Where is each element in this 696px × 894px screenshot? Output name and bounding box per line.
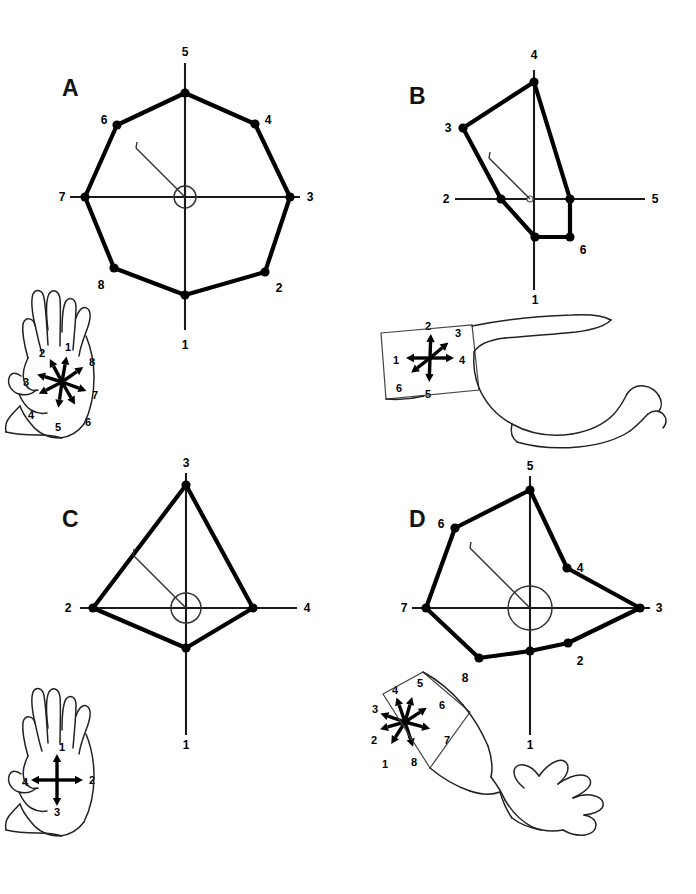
center-leader-tick [470,542,471,548]
data-point [180,290,189,299]
data-point [248,603,257,612]
center-leader-tick [489,152,490,158]
axis-label-1: 1 [183,738,190,752]
data-polygon [463,82,570,237]
data-point [565,194,574,203]
direction-arrowhead-3 [37,373,46,381]
direction-arrowhead-7 [421,723,430,731]
vertex-label-6: 6 [580,243,587,257]
direction-label-5: 5 [417,677,423,689]
panel-letter-b: B [409,83,426,109]
axis-label-3: 3 [656,601,663,615]
axis-label-5: 5 [652,192,659,206]
direction-arrowhead-2 [426,334,434,342]
radial-plot-a: 12345678 [59,45,314,352]
data-point [525,646,534,655]
direction-arrowhead-1 [406,354,414,362]
data-point [250,119,259,128]
direction-label-3: 3 [455,327,461,339]
direction-arrowhead-2 [380,723,389,731]
center-leader-tick [133,549,134,555]
axis-label-2: 2 [443,192,450,206]
direction-label-6: 6 [439,699,445,711]
arm-outline-b [381,315,666,448]
direction-arrowhead-5 [55,399,63,408]
data-point [474,653,483,662]
vertex-label-6: 6 [101,113,108,127]
data-point [181,480,190,489]
vertex-label-8: 8 [462,671,469,685]
vertex-label-3: 3 [445,121,452,135]
axis-label-3: 3 [183,456,190,470]
center-leader-line [470,548,530,608]
hand-dorsum-4-direction-inset: 1234 [22,741,95,818]
direction-label-5: 5 [55,421,61,433]
direction-label-1: 1 [65,341,71,353]
direction-arrowhead-4 [446,354,454,362]
data-point [635,603,644,612]
center-leader-line [136,148,185,197]
direction-label-5: 5 [425,388,431,400]
data-point [180,88,189,97]
direction-arrowhead-3 [53,798,61,806]
axis-label-4: 4 [531,48,538,62]
direction-arrowhead-1 [61,356,69,365]
vertex-label-2: 2 [276,281,283,295]
forearm-skin-patch-6-direction-inset: 123456 [393,320,466,400]
data-polygon [93,485,253,648]
anatomy-insets-group: 12345678123456123412345678 [22,320,466,818]
data-point [458,123,467,132]
axis-label-2: 2 [65,601,72,615]
axis-label-1: 1 [182,338,189,352]
data-polygon [426,490,640,658]
data-point [525,485,534,494]
vertex-label-4: 4 [265,113,272,127]
data-point [181,643,190,652]
direction-arrowhead-2 [75,776,83,784]
direction-label-6: 6 [396,382,402,394]
data-point [529,77,538,86]
direction-label-4: 4 [459,354,466,366]
center-leader-tick [136,142,137,148]
center-leader-line [489,158,530,199]
data-point [80,192,89,201]
direction-arrowhead-1 [53,754,61,762]
data-point [88,603,97,612]
vertex-label-6: 6 [438,517,445,531]
vertex-label-8: 8 [98,278,105,292]
data-point [285,192,294,201]
data-point [421,603,430,612]
axis-label-1: 1 [527,738,534,752]
direction-label-2: 2 [425,320,431,332]
figure-canvas: A B C D 12345678123456123412345678 12345… [0,0,696,894]
radial-plot-c: 1234 [65,456,311,752]
data-point [109,263,118,272]
data-point [450,523,459,532]
panel-letter-d: D [409,506,426,532]
direction-label-3: 3 [372,703,378,715]
radial-plots-group: 12345678123456123412345678 [59,45,663,752]
hand-outline-a [6,291,94,438]
center-leader-line [133,555,186,608]
axis-label-4: 4 [304,601,311,615]
axis-label-1: 1 [532,293,539,307]
axis-label-5: 5 [527,459,534,473]
data-point [530,232,539,241]
direction-label-3: 3 [54,806,60,818]
direction-label-1: 1 [393,354,399,366]
panel-letter-c: C [62,506,79,532]
vertex-label-4: 4 [577,561,584,575]
arm-outline-d [383,672,603,835]
direction-label-6: 6 [85,416,91,428]
direction-label-8: 8 [411,756,417,768]
axis-label-3: 3 [307,190,314,204]
axis-label-7: 7 [401,601,408,615]
direction-label-1: 1 [382,758,388,770]
radial-plot-b: 123456 [443,48,659,307]
data-point [562,563,571,572]
axis-label-5: 5 [182,45,189,59]
direction-arrowhead-5 [425,374,433,382]
vertex-label-2: 2 [577,654,584,668]
data-point [496,194,505,203]
direction-arrowhead-5 [406,697,414,706]
